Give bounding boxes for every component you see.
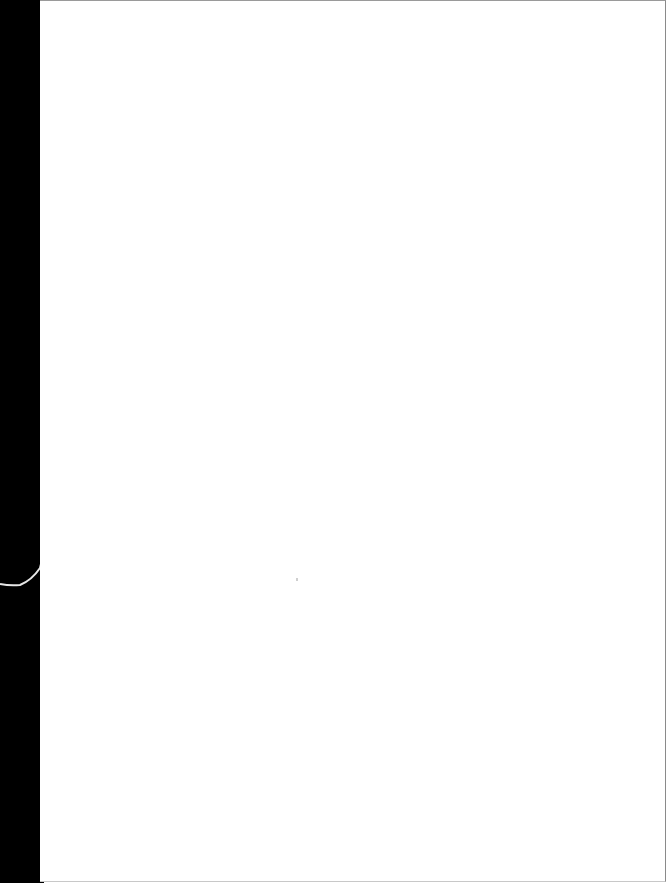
scan-speck bbox=[296, 578, 298, 581]
scanner-edge bbox=[0, 0, 40, 883]
scanner-edge-lower bbox=[0, 560, 44, 883]
blank-page bbox=[40, 0, 666, 882]
